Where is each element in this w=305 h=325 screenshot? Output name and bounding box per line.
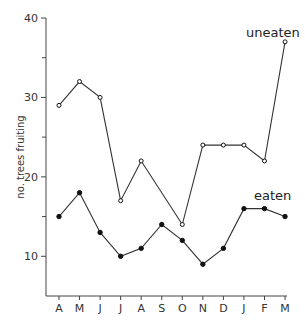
data-point-eaten	[221, 246, 225, 250]
data-point-eaten	[180, 238, 184, 242]
axes	[46, 18, 287, 296]
data-point-eaten	[139, 246, 143, 250]
data-point-uneaten	[98, 95, 102, 99]
data-point-uneaten	[242, 143, 246, 147]
data-point-eaten	[118, 254, 122, 258]
y-tick-label: 10	[24, 250, 38, 263]
x-tick-label: J	[97, 302, 101, 315]
y-tick-label: 30	[24, 91, 38, 104]
y-axis-title: no. trees fruiting	[15, 115, 26, 198]
data-point-eaten	[77, 191, 81, 195]
data-point-uneaten	[201, 143, 205, 147]
x-tick-label: F	[261, 302, 267, 315]
data-point-eaten	[160, 222, 164, 226]
data-point-eaten	[262, 206, 266, 210]
data-point-eaten	[57, 214, 61, 218]
data-point-eaten	[98, 230, 102, 234]
x-tick-label: J	[241, 302, 245, 315]
data-point-eaten	[283, 214, 287, 218]
series-label-eaten: eaten	[254, 188, 291, 203]
x-tick-label: M	[75, 302, 85, 315]
x-tick-label: S	[158, 302, 165, 315]
data-point-eaten	[242, 206, 246, 210]
data-point-uneaten	[283, 40, 287, 44]
data-point-uneaten	[139, 159, 143, 163]
series-line-eaten	[59, 193, 285, 264]
data-point-uneaten	[57, 103, 61, 107]
x-tick-label: N	[199, 302, 207, 315]
line-chart: 10203040 AMJJASONDJFM no. trees fruiting…	[0, 0, 305, 325]
series-label-uneaten: uneaten	[246, 25, 300, 40]
x-tick-label: M	[280, 302, 290, 315]
data-point-uneaten	[263, 159, 267, 163]
x-tick-label: J	[118, 302, 122, 315]
series-group	[57, 40, 287, 267]
y-tick-label: 20	[24, 171, 38, 184]
data-point-uneaten	[119, 199, 123, 203]
data-point-eaten	[201, 262, 205, 266]
x-tick-label: D	[219, 302, 227, 315]
y-axis-ticks: 10203040	[24, 12, 46, 263]
x-tick-label: O	[178, 302, 187, 315]
data-point-uneaten	[78, 80, 82, 84]
y-tick-label: 40	[24, 12, 38, 25]
series-line-uneaten	[59, 42, 285, 225]
data-point-uneaten	[180, 223, 184, 227]
data-point-uneaten	[221, 143, 225, 147]
x-tick-label: A	[137, 302, 145, 315]
x-tick-label: A	[55, 302, 63, 315]
x-axis-ticks: AMJJASONDJFM	[55, 296, 290, 315]
